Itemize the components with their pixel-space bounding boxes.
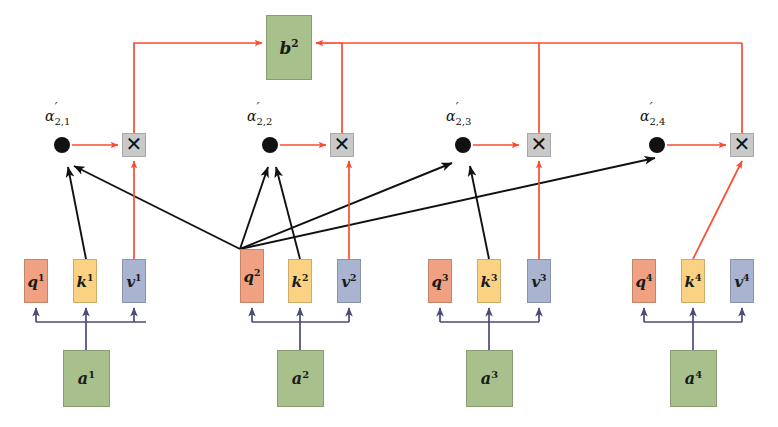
query-vector-2: q2: [240, 249, 264, 303]
connector-layer: [0, 0, 778, 427]
attention-diagram-canvas: b2 ✕ ✕ ✕ ✕ α′2,1 α′2,2 α′2,3 α′2,4 q1 k1…: [0, 0, 778, 427]
attention-arrows: [72, 43, 742, 259]
key-vector-1: k1: [73, 259, 97, 303]
attention-node-2-1: [54, 137, 70, 153]
value-vector-4: v4: [730, 259, 754, 303]
value-vector-1: v1: [122, 259, 146, 303]
key-vector-4: k4: [681, 259, 705, 303]
attention-node-2-2: [262, 137, 278, 153]
output-vector-b2: b2: [266, 15, 312, 80]
query-vector-3: q3: [428, 259, 452, 303]
input-vector-4: a4: [670, 350, 717, 407]
attention-node-2-4: [649, 137, 665, 153]
projection-arrows-group-4: [644, 308, 742, 350]
score-arrows: [68, 158, 655, 259]
key-vector-2: k2: [288, 259, 312, 303]
output-vector-label: b2: [279, 38, 298, 57]
projection-arrows-group-1: [36, 308, 146, 350]
multiply-icon: ✕: [334, 134, 351, 154]
multiply-4[interactable]: ✕: [730, 133, 754, 157]
multiply-2[interactable]: ✕: [330, 133, 354, 157]
projection-arrows-group-2: [252, 308, 349, 350]
multiply-icon: ✕: [531, 134, 548, 154]
multiply-icon: ✕: [734, 134, 751, 154]
input-vector-3: a3: [466, 350, 513, 407]
projection-arrows-group-3: [440, 308, 539, 350]
attention-weight-label-2-1: α′2,1: [45, 108, 70, 127]
query-vector-4: q4: [632, 259, 656, 303]
multiply-3[interactable]: ✕: [527, 133, 551, 157]
input-vector-2: a2: [277, 350, 324, 407]
attention-weight-label-2-2: α′2,2: [247, 108, 272, 127]
multiply-1[interactable]: ✕: [122, 133, 146, 157]
attention-weight-label-2-3: α′2,3: [446, 108, 471, 127]
multiply-icon: ✕: [126, 134, 143, 154]
value-vector-2: v2: [337, 259, 361, 303]
query-vector-1: q1: [24, 259, 48, 303]
attention-weight-label-2-4: α′2,4: [640, 108, 665, 127]
input-vector-1: a1: [63, 350, 110, 407]
key-vector-3: k3: [477, 259, 501, 303]
value-vector-3: v3: [527, 259, 551, 303]
attention-node-2-3: [455, 137, 471, 153]
